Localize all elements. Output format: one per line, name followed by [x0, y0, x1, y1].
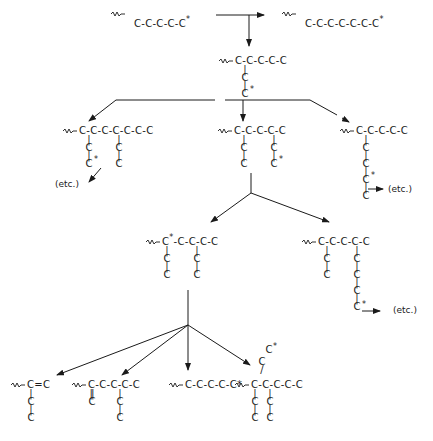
- level1-radical-marker: *: [250, 86, 254, 94]
- radical-marker: *: [371, 172, 375, 180]
- arrows-layer: [0, 0, 433, 441]
- propagation-product-chain: C-C-C-C-C-C-C*: [298, 9, 384, 29]
- etc-label-right-2: (etc.): [393, 306, 417, 315]
- product-2-double-branch: ‖ C: [87, 390, 97, 406]
- level2-right-branch: | C | C | C | C: [361, 136, 371, 200]
- etc-label-left: (etc.): [55, 180, 79, 189]
- radical-marker: *: [273, 343, 277, 351]
- level3-right-branch-1: | C | C: [322, 247, 332, 279]
- product-4-branch-2: | C | C: [265, 390, 275, 422]
- arrow-to-p1: [57, 325, 188, 375]
- level2-left-branch-2: | C | C: [114, 136, 124, 168]
- level3-left-branch-2: | C | C: [192, 247, 202, 279]
- product-4-chain: C-C-C-C-C: [251, 380, 303, 390]
- level3-right-branch-2: | C | C | C | C: [352, 247, 362, 311]
- arrow-to-l3-left: [211, 193, 251, 222]
- product-4-up-branch: C /: [257, 358, 267, 374]
- level3-left-branch-1: | C | C: [162, 247, 172, 279]
- product-3-radical-chain: C-C-C-C-C*: [185, 380, 242, 390]
- cut-off-caption: [0, 434, 433, 441]
- arrow-etc-left: [89, 168, 101, 182]
- radical-marker: *: [169, 233, 173, 242]
- product-1-branch: | C | C: [26, 390, 36, 422]
- arrow-to-l3-right: [251, 193, 329, 222]
- product-4-branch-1: | C | C: [250, 390, 260, 422]
- chain-text: C-C-C-C-C: [134, 18, 186, 29]
- level3-left-main-chain: C*-C-C-C-C: [162, 237, 218, 247]
- arrow-to-p2: [122, 325, 188, 375]
- product-2-chain: C-C-C-C-C: [88, 380, 140, 390]
- radical-marker: *: [94, 156, 98, 164]
- wavy-bonds: [11, 12, 354, 387]
- arrow-branch-right: [310, 100, 337, 115]
- radical-marker: *: [379, 15, 383, 24]
- level1-branch: | C | C: [240, 66, 250, 98]
- product-2-branch: | C | C: [115, 390, 125, 422]
- level2-middle-branch-1: | C | C: [239, 136, 249, 168]
- start-radical-chain: C-C-C-C-C*: [127, 9, 190, 29]
- radical-marker: *: [186, 15, 190, 24]
- radical-marker: *: [279, 156, 283, 164]
- level2-middle-branch-2: | C | C: [269, 136, 279, 168]
- chain-text: C-C-C-C-C-C-C: [305, 18, 379, 29]
- radical-marker: *: [362, 301, 366, 309]
- etc-label-right: (etc.): [388, 185, 412, 194]
- level2-left-branch-1: | C | C: [84, 136, 94, 168]
- arrow-branch-left: [89, 100, 175, 121]
- arrow-to-p4: [188, 325, 250, 365]
